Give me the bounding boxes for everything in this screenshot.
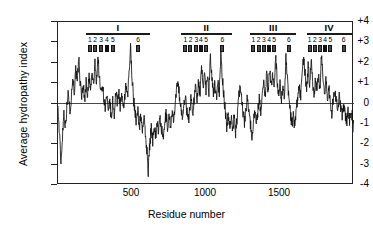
x-axis-label: Residue number	[0, 208, 373, 220]
segment-box	[328, 45, 332, 52]
x-tick-label: 1000	[194, 187, 216, 198]
segment-box	[308, 45, 312, 52]
segment-box	[313, 45, 317, 52]
segment-box	[318, 45, 322, 52]
y-tick-label: +3	[358, 36, 369, 46]
y-tick-label: +1	[358, 77, 369, 87]
segment-box	[323, 45, 327, 52]
y-tick-label: 0	[363, 98, 369, 108]
y-tick-label: +4	[358, 16, 369, 26]
y-tick-label: -3	[360, 159, 369, 169]
y-tick-mark	[51, 184, 57, 185]
hydropathy-trace	[58, 43, 354, 177]
plot-area: I123456II123456III123456IV123456	[57, 21, 353, 184]
segment-number: 1	[308, 36, 312, 43]
y-tick-label: -1	[360, 118, 369, 128]
x-tick-label: 500	[123, 187, 140, 198]
domain-bar	[307, 33, 352, 35]
y-tick-label: +2	[358, 57, 369, 67]
hydropathy-figure: Average hydropathy index Residue number …	[0, 0, 373, 235]
y-tick-label: -2	[360, 138, 369, 148]
segment-box	[342, 45, 346, 52]
y-tick-label: -4	[360, 179, 369, 189]
domain-label: IV	[324, 22, 334, 33]
segment-number: 5	[329, 36, 333, 43]
domain-marker: IV123456	[58, 24, 354, 54]
segment-number: 4	[323, 36, 327, 43]
segment-number: 2	[313, 36, 317, 43]
x-tick-label: 1500	[268, 187, 290, 198]
segment-number: 6	[342, 36, 346, 43]
y-axis-label: Average hydropathy index	[17, 29, 29, 179]
segment-number: 3	[318, 36, 322, 43]
